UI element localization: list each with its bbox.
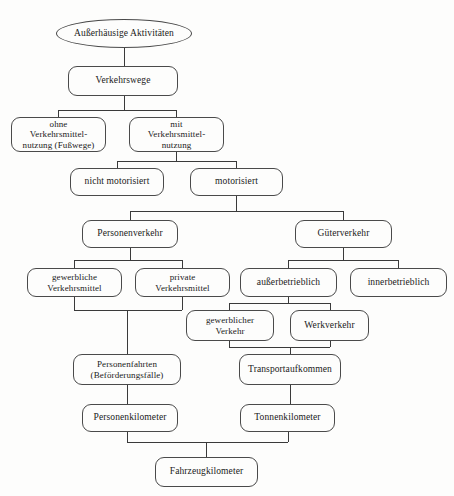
- node-private-verkehrsmittel-label: private Verkehrsmittel: [155, 272, 209, 293]
- node-ausserbetrieblich[interactable]: außerbetrieblich: [240, 268, 337, 297]
- node-gewerblicher-verkehr-label: gewerblicher Verkehr: [206, 315, 254, 336]
- node-mit-verkehrsmittelnutzung[interactable]: mit Verkehrsmittel- nutzung: [129, 117, 224, 152]
- node-gewerbliche-verkehrsmittel-label: gewerbliche Verkehrsmittel: [47, 272, 101, 293]
- node-gueterverkehr-label: Güterverkehr: [318, 228, 370, 239]
- node-gewerbliche-verkehrsmittel[interactable]: gewerbliche Verkehrsmittel: [27, 268, 122, 297]
- node-tonnenkilometer[interactable]: Tonnenkilometer: [240, 404, 335, 432]
- node-nicht-motorisiert[interactable]: nicht motorisiert: [70, 168, 164, 196]
- node-innerbetrieblich[interactable]: innerbetrieblich: [350, 268, 447, 297]
- node-innerbetrieblich-label: innerbetrieblich: [368, 277, 430, 288]
- node-werkverkehr-label: Werkverkehr: [304, 320, 354, 331]
- node-personenverkehr-label: Personenverkehr: [97, 228, 162, 239]
- node-verkehrswege[interactable]: Verkehrswege: [68, 66, 178, 96]
- node-transportaufkommen[interactable]: Transportaufkommen: [239, 354, 341, 385]
- node-werkverkehr[interactable]: Werkverkehr: [290, 310, 369, 341]
- node-fahrzeugkilometer-label: Fahrzeugkilometer: [170, 466, 243, 477]
- node-nicht-motorisiert-label: nicht motorisiert: [85, 176, 150, 187]
- node-ausserhaeusige-aktivitaeten-label: Außerhäusige Aktivitäten: [74, 28, 174, 39]
- node-transportaufkommen-label: Transportaufkommen: [248, 364, 332, 375]
- node-personenfahrten[interactable]: Personenfahrten (Beförderungsfälle): [73, 354, 181, 385]
- node-personenfahrten-label: Personenfahrten (Beförderungsfälle): [91, 359, 164, 380]
- node-ohne-verkehrsmittelnutzung[interactable]: ohne Verkehrsmittel- nutzung (Fußwege): [11, 117, 106, 152]
- node-tonnenkilometer-label: Tonnenkilometer: [254, 412, 320, 423]
- flowchart-diagram: Außerhäusige AktivitätenVerkehrswegeohne…: [0, 0, 454, 496]
- node-verkehrswege-label: Verkehrswege: [95, 75, 150, 86]
- node-personenkilometer-label: Personenkilometer: [94, 412, 167, 423]
- node-gewerblicher-verkehr[interactable]: gewerblicher Verkehr: [186, 310, 274, 341]
- node-ausserbetrieblich-label: außerbetrieblich: [257, 277, 320, 288]
- node-fahrzeugkilometer[interactable]: Fahrzeugkilometer: [155, 457, 258, 487]
- node-private-verkehrsmittel[interactable]: private Verkehrsmittel: [135, 268, 230, 297]
- node-motorisiert-label: motorisiert: [215, 176, 258, 187]
- node-motorisiert[interactable]: motorisiert: [190, 168, 283, 196]
- node-personenverkehr[interactable]: Personenverkehr: [82, 220, 178, 248]
- node-mit-verkehrsmittelnutzung-label: mit Verkehrsmittel- nutzung: [148, 119, 205, 151]
- node-personenkilometer[interactable]: Personenkilometer: [82, 404, 178, 432]
- node-gueterverkehr[interactable]: Güterverkehr: [295, 220, 392, 248]
- node-ausserhaeusige-aktivitaeten[interactable]: Außerhäusige Aktivitäten: [56, 19, 192, 48]
- node-ohne-verkehrsmittelnutzung-label: ohne Verkehrsmittel- nutzung (Fußwege): [23, 119, 95, 151]
